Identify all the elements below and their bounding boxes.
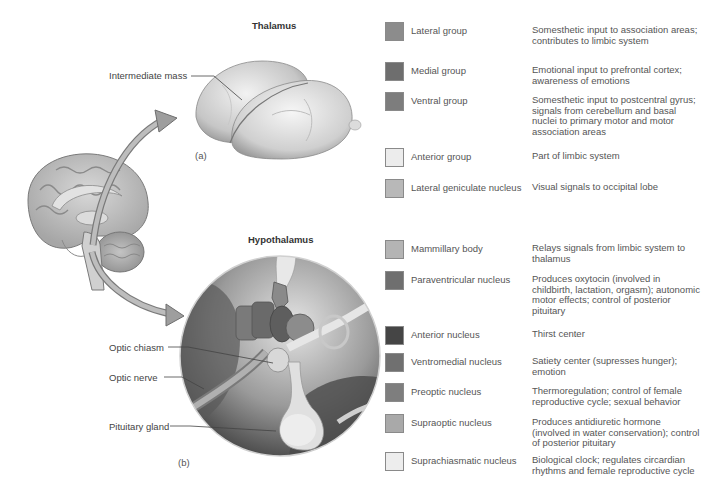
legend-description: Visual signals to occipital lobe [532,182,700,193]
legend-description: Produces antidiuretic hormone (involved … [532,417,700,449]
medial-group-swatch [385,62,404,81]
legend-name: Lateral geniculate nucleus [411,182,521,193]
optic-nerve-label: Optic nerve [109,372,158,383]
legend-name: Supraoptic nucleus [411,417,492,428]
lateral-group-swatch [385,22,404,41]
legend-item-lateral-geniculate-nucleus: Lateral geniculate nucleus Visual signal… [385,179,701,201]
suprachiasmatic-nucleus-swatch [385,452,404,471]
supraoptic-nucleus-swatch [385,414,404,433]
legend-name: Anterior nucleus [411,329,480,340]
optic-chiasm-label: Optic chiasm [109,342,164,353]
paraventricular-nucleus-swatch [385,271,404,290]
legend-item-lateral-group: Lateral group Somesthetic input to assoc… [385,22,701,60]
legend-name: Ventromedial nucleus [411,356,502,367]
arrow-to-thalamus [85,80,205,250]
ventromedial-nucleus-swatch [385,353,404,372]
thalamus-title: Thalamus [252,20,296,31]
hypothalamus-title: Hypothalamus [248,234,313,245]
legend-item-supraoptic-nucleus: Supraoptic nucleus Produces antidiuretic… [385,414,701,452]
legend-description: Relays signals from limbic system to tha… [532,243,700,264]
intermediate-mass-leader-line [190,70,270,110]
legend-item-medial-group: Medial group Emotional input to prefront… [385,62,701,90]
legend-name: Medial group [411,65,466,76]
legend-item-suprachiasmatic-nucleus: Suprachiasmatic nucleus Biological clock… [385,452,701,490]
anterior-nucleus-swatch [385,326,404,345]
pituitary-gland-label: Pituitary gland [109,421,169,432]
mammillary-body-swatch [385,240,404,259]
legend-item-anterior-group: Anterior group Part of limbic system [385,148,701,170]
legend-description: Emotional input to prefrontal cortex; aw… [532,65,700,86]
pituitary-gland-leader-line [170,422,290,442]
optic-chiasm-leader-line [168,343,288,373]
preoptic-nucleus-swatch [385,383,404,402]
legend-description: Somesthetic input to association areas; … [532,25,700,46]
legend-name: Preoptic nucleus [411,386,481,397]
legend-item-anterior-nucleus: Anterior nucleus Thirst center [385,326,701,348]
legend-description: Thermoregulation; control of female repr… [532,386,700,407]
legend-description: Produces oxytocin (involved in childbirt… [532,274,700,316]
ventral-group-swatch [385,92,404,111]
legend-item-ventral-group: Ventral group Somesthetic input to postc… [385,92,701,152]
legend-item-mammillary-body: Mammillary body Relays signals from limb… [385,240,701,268]
legend-description: Somesthetic input to postcentral gyrus; … [532,95,700,137]
legend-description: Thirst center [532,329,700,340]
panel-a-label: (a) [195,150,207,161]
legend-description: Satiety center (supresses hunger); emoti… [532,356,700,377]
panel-b-label: (b) [178,457,190,468]
lateral-geniculate-nucleus-swatch [385,179,404,198]
legend-name: Mammillary body [411,243,483,254]
legend-item-paraventricular-nucleus: Paraventricular nucleus Produces oxytoci… [385,271,701,321]
legend-item-ventromedial-nucleus: Ventromedial nucleus Satiety center (sup… [385,353,701,381]
intermediate-mass-label: Intermediate mass [109,70,187,81]
legend-description: Biological clock; regulates circardian r… [532,455,700,476]
legend-name: Lateral group [411,25,467,36]
legend-name: Ventral group [411,95,468,106]
legend-name: Suprachiasmatic nucleus [411,455,517,466]
legend-name: Paraventricular nucleus [411,274,510,285]
optic-nerve-leader-line [164,373,224,403]
legend-description: Part of limbic system [532,151,700,162]
legend-name: Anterior group [411,151,471,162]
anterior-group-swatch [385,148,404,167]
